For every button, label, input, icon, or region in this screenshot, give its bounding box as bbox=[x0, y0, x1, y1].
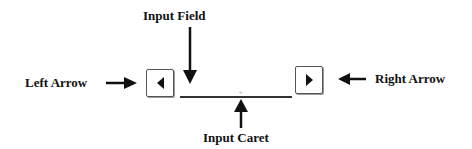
input-field-pointer-arrow-icon bbox=[183, 27, 197, 84]
input-caret-label: Input Caret bbox=[203, 131, 269, 144]
input-caret: + bbox=[238, 92, 243, 95]
input-caret-pointer-arrow-icon bbox=[234, 99, 248, 128]
left-arrow-label: Left Arrow bbox=[25, 76, 87, 89]
triangle-left-icon bbox=[157, 77, 164, 89]
input-field[interactable] bbox=[180, 96, 292, 98]
right-arrow-button[interactable] bbox=[295, 66, 323, 94]
left-arrow-pointer-arrow-icon bbox=[106, 77, 137, 89]
left-arrow-button[interactable] bbox=[146, 69, 174, 97]
right-arrow-label: Right Arrow bbox=[375, 72, 445, 85]
right-arrow-pointer-arrow-icon bbox=[338, 73, 366, 85]
input-field-label: Input Field bbox=[143, 9, 206, 22]
triangle-right-icon bbox=[306, 74, 313, 86]
